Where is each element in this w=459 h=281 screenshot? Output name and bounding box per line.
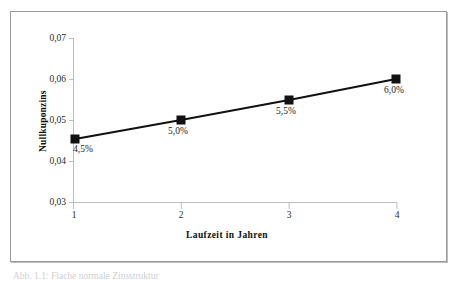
x-tick-label: 4 bbox=[387, 211, 407, 221]
y-tick-label: 0,03 bbox=[44, 198, 66, 208]
x-axis-title: Laufzeit in Jahren bbox=[186, 230, 268, 240]
data-point-label: 6,0% bbox=[384, 86, 404, 96]
data-point-label: 5,0% bbox=[168, 127, 188, 137]
data-point-label: 4,5% bbox=[73, 145, 93, 155]
x-tick-label: 1 bbox=[64, 211, 84, 221]
figure-caption: Abb. 1.1: Flache normale Zinsstruktur bbox=[13, 272, 159, 281]
data-point-label: 5,5% bbox=[276, 107, 296, 117]
figure-frame bbox=[10, 11, 447, 262]
x-tick-label: 2 bbox=[171, 211, 191, 221]
y-tick-label: 0,07 bbox=[44, 34, 66, 44]
y-tick-label: 0,06 bbox=[44, 75, 66, 85]
x-tick-label: 3 bbox=[279, 211, 299, 221]
y-tick-label: 0,04 bbox=[44, 157, 66, 167]
y-axis-title: Nullkuponzins bbox=[38, 90, 48, 152]
